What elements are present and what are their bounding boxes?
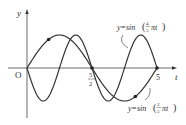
svg-text:2: 2: [157, 102, 160, 107]
origin-label: O: [15, 70, 22, 80]
sine-graph: y t O 5 2 5 y=sin ( 4 5 πt ) y=sin ( 2 5…: [0, 0, 186, 125]
svg-text:5: 5: [157, 109, 160, 114]
tick-half-denominator: 2: [89, 80, 92, 87]
intersection-dot: [90, 66, 94, 70]
t-axis-label: t: [175, 72, 178, 82]
svg-text:πt: πt: [151, 23, 158, 32]
svg-text:πt: πt: [162, 104, 169, 113]
svg-text:y=sin: y=sin: [116, 23, 135, 32]
y-axis-arrow-icon: [25, 9, 28, 14]
svg-text:5: 5: [146, 28, 149, 33]
fast-curve-label: y=sin ( 4 5 πt ): [116, 21, 165, 33]
fast-label-leader: [121, 35, 128, 48]
intersection-dot: [47, 38, 51, 42]
svg-text:4: 4: [146, 21, 149, 26]
svg-text:y=sin: y=sin: [127, 104, 146, 113]
y-axis-label: y: [16, 8, 21, 18]
slow-curve-label: y=sin ( 2 5 πt ): [127, 102, 176, 114]
intersection-dot: [155, 66, 159, 70]
slow-label-leader: [145, 88, 150, 100]
tick-five-label: 5: [156, 73, 160, 82]
t-axis-arrow-icon: [172, 66, 177, 69]
svg-text:): ): [173, 102, 176, 114]
tick-half-numerator: 5: [89, 71, 92, 78]
intersection-dot: [134, 95, 138, 99]
svg-text:): ): [162, 21, 165, 33]
